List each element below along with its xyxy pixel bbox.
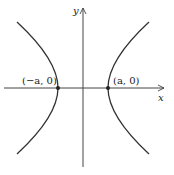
left-vertex-point bbox=[56, 86, 60, 90]
left-vertex-label: (−a, 0) bbox=[22, 75, 57, 86]
y-axis-label: y bbox=[72, 5, 79, 16]
hyperbola-diagram: (−a, 0) (a, 0) x y bbox=[0, 0, 174, 175]
right-vertex-point bbox=[106, 86, 110, 90]
right-vertex-label: (a, 0) bbox=[113, 75, 140, 86]
x-axis-label: x bbox=[158, 92, 164, 103]
